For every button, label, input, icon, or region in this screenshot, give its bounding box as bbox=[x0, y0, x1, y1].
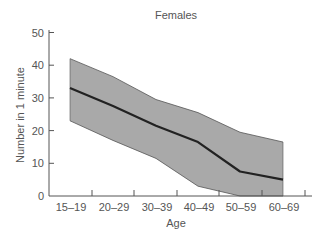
range-band bbox=[70, 59, 283, 196]
x-tick-label: 15–19 bbox=[56, 201, 87, 213]
y-tick-label: 10 bbox=[32, 157, 44, 169]
y-axis-label: Number in 1 minute bbox=[14, 67, 26, 163]
y-ticks: 01020304050 bbox=[32, 27, 54, 203]
x-tick-label: 40–49 bbox=[184, 201, 215, 213]
y-tick-label: 20 bbox=[32, 125, 44, 137]
band-fill bbox=[70, 59, 283, 196]
chart: Females 01020304050 15–1920–2930–3940–49… bbox=[0, 0, 326, 236]
y-tick-label: 30 bbox=[32, 92, 44, 104]
x-tick-label: 60–69 bbox=[269, 201, 300, 213]
x-tick-label: 20–29 bbox=[99, 201, 130, 213]
chart-title: Females bbox=[155, 9, 198, 21]
y-tick-label: 40 bbox=[32, 59, 44, 71]
y-tick-label: 0 bbox=[38, 190, 44, 202]
y-tick-label: 50 bbox=[32, 27, 44, 39]
x-tick-label: 50–59 bbox=[226, 201, 257, 213]
x-axis-label: Age bbox=[166, 217, 186, 229]
x-tick-label: 30–39 bbox=[142, 201, 173, 213]
